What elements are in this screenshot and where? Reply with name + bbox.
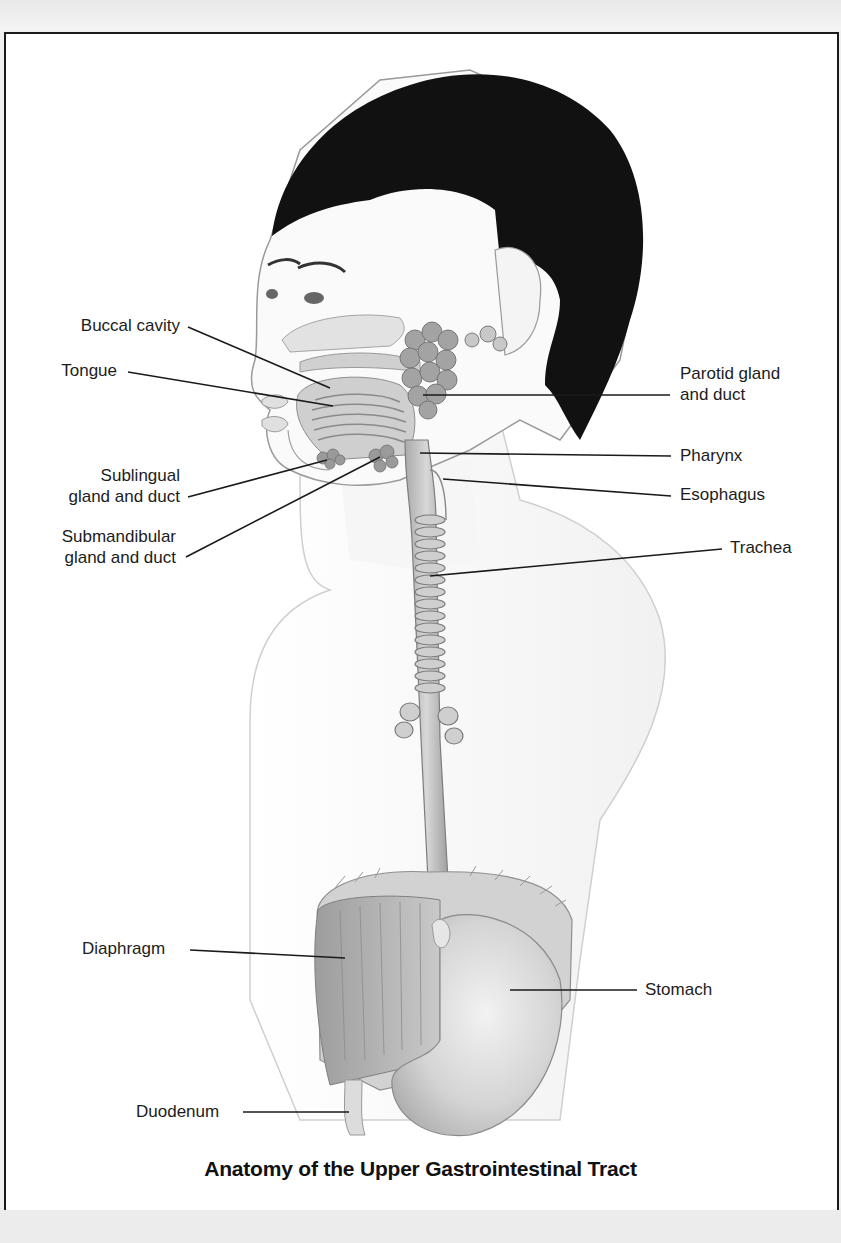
label-sublingual-line2: gland and duct (30, 487, 180, 507)
label-submandibular-line2: gland and duct (30, 548, 176, 568)
label-submandibular-line1: Submandibular (30, 527, 176, 547)
label-trachea: Trachea (730, 538, 792, 558)
label-duodenum: Duodenum (136, 1102, 219, 1122)
label-buccal-cavity: Buccal cavity (40, 316, 180, 336)
label-esophagus: Esophagus (680, 485, 765, 505)
figure-title: Anatomy of the Upper Gastrointestinal Tr… (0, 1157, 841, 1181)
anatomy-illustration (0, 0, 841, 1243)
label-stomach: Stomach (645, 980, 712, 1000)
label-parotid-line1: Parotid gland (680, 364, 780, 384)
label-tongue: Tongue (20, 361, 117, 381)
label-diaphragm: Diaphragm (82, 939, 165, 959)
label-pharynx: Pharynx (680, 446, 742, 466)
label-sublingual-line1: Sublingual (30, 466, 180, 486)
label-parotid-line2: and duct (680, 385, 745, 405)
